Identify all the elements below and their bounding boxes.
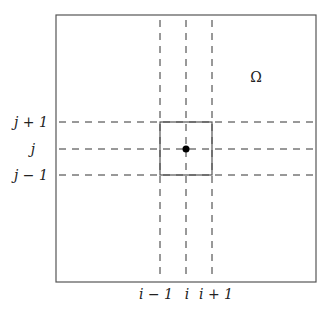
col-label-i: i [185, 286, 189, 302]
grid-diagram: Ω j + 1 j j − 1 i − 1 i i + 1 [0, 0, 333, 312]
center-node-point [183, 146, 190, 153]
col-label-i-plus-1: i + 1 [199, 286, 233, 302]
domain-label: Ω [250, 69, 262, 85]
row-label-j: j [28, 141, 36, 157]
col-label-i-minus-1: i − 1 [139, 286, 173, 302]
row-label-j-minus-1: j − 1 [11, 167, 48, 183]
row-label-j-plus-1: j + 1 [11, 114, 48, 130]
